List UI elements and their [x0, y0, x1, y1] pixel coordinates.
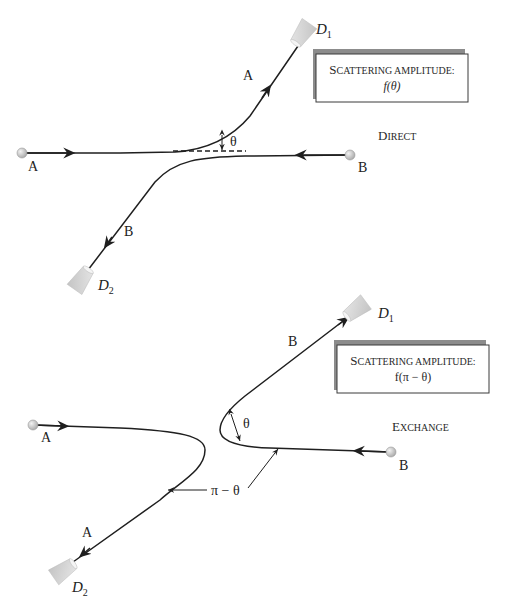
direct-particle-a: [17, 148, 27, 158]
direct-amplitude-title: SCATTERING AMPLITUDE:: [329, 62, 454, 77]
exchange-particle-b: [386, 447, 396, 457]
exchange-angle-arrow: [231, 414, 240, 441]
direct-particle-a-label: A: [28, 159, 39, 174]
exchange-supplement-arrow-b: [248, 449, 278, 488]
direct-amplitude-box: SCATTERING AMPLITUDE: f(θ): [313, 49, 468, 102]
exchange-trajectory-a: [33, 425, 205, 562]
exchange-panel-label: EXCHANGE: [392, 419, 449, 434]
direct-detector-d2-icon: [67, 263, 97, 295]
exchange-particle-a: [28, 420, 38, 430]
exchange-outgoing-a-label: A: [82, 525, 93, 540]
scattering-diagram: θ A B A B D1 D2 SCATTERING AMPLITUDE: f(…: [0, 0, 512, 607]
exchange-outgoing-b-label: B: [288, 334, 297, 349]
exchange-particle-a-label: A: [41, 430, 52, 445]
direct-detector-d1-label: D1: [315, 21, 332, 40]
direct-panel-label: DIRECT: [378, 128, 416, 143]
exchange-amplitude-formula: f(π − θ): [395, 370, 432, 384]
direct-angle-label: θ: [230, 134, 237, 149]
exchange-supplement-label: π − θ: [211, 483, 240, 498]
exchange-amplitude-title: SCATTERING AMPLITUDE:: [350, 353, 475, 368]
exchange-amplitude-box: SCATTERING AMPLITUDE: f(π − θ): [334, 340, 489, 393]
direct-detector-d2-label: D2: [97, 277, 114, 296]
exchange-detector-d2-label: D2: [71, 579, 88, 598]
exchange-particle-b-label: B: [399, 458, 408, 473]
exchange-detector-d1-label: D1: [377, 305, 394, 324]
direct-panel: θ A B A B D1 D2 SCATTERING AMPLITUDE: f(…: [17, 18, 468, 296]
direct-amplitude-formula: f(θ): [383, 79, 400, 93]
direct-trajectory-a: [22, 46, 298, 153]
direct-particle-b-label: B: [358, 160, 367, 175]
direct-outgoing-b-label: B: [124, 224, 133, 239]
direct-particle-b: [345, 150, 355, 160]
exchange-panel: θ π − θ A B B A D1 D2 SCATTERING AMPLITU…: [28, 295, 489, 598]
exchange-angle-label: θ: [243, 416, 250, 431]
direct-detector-d1-icon: [287, 18, 317, 50]
direct-trajectory-b: [88, 155, 350, 270]
direct-outgoing-a-label: A: [243, 68, 254, 83]
